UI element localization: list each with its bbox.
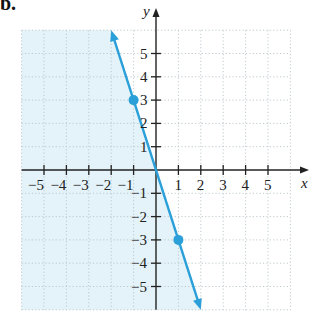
y-tick-label: 2	[140, 116, 148, 131]
x-tick-label: −4	[50, 178, 66, 193]
y-tick-label: −3	[131, 233, 147, 248]
coordinate-plane-graph	[0, 0, 311, 314]
x-tick-label: 3	[219, 178, 227, 193]
line-arrow-top-icon	[110, 30, 119, 42]
y-tick-label: 5	[140, 47, 148, 62]
x-tick-label: 4	[242, 178, 250, 193]
y-tick-label: −1	[131, 186, 147, 201]
x-axis-arrow-icon	[300, 167, 309, 174]
y-axis-arrow-icon	[153, 8, 160, 17]
x-tick-label: −2	[95, 178, 111, 193]
plotted-point	[173, 235, 183, 245]
y-tick-label: 4	[140, 70, 148, 85]
y-tick-label: 1	[140, 140, 148, 155]
y-axis-label: y	[143, 4, 150, 19]
x-tick-label: 5	[264, 178, 272, 193]
plotted-point	[129, 95, 139, 105]
x-tick-label: 1	[174, 178, 182, 193]
x-tick-label: 2	[197, 178, 205, 193]
y-tick-label: −5	[131, 280, 147, 295]
x-tick-label: −3	[73, 178, 89, 193]
y-tick-label: −4	[131, 256, 147, 271]
y-tick-label: −2	[131, 210, 147, 225]
x-axis-label: x	[301, 176, 308, 191]
y-tick-label: 3	[140, 93, 148, 108]
x-tick-label: −5	[28, 178, 44, 193]
